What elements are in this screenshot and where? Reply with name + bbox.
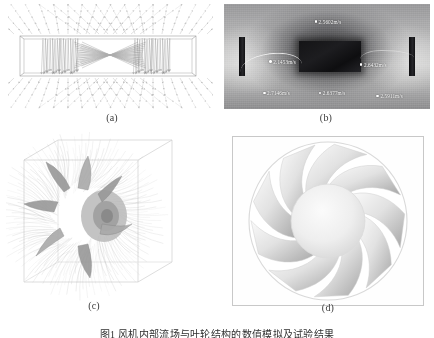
probe-wire-secondary xyxy=(360,50,414,59)
figure-root: (a) 2.5602m/s 2.1453m/s 2.6432m/s 2.7146… xyxy=(0,0,434,338)
panel-c-svg xyxy=(6,132,214,304)
measurement-point-bottom-mid: 2.6377m/s xyxy=(319,90,346,96)
panel-d-svg xyxy=(232,136,424,306)
figure-caption: 图1 风机内部流场与叶轮结构的数值模拟及试验结果 xyxy=(0,329,434,338)
panel-c-impeller-streamlines: (c) xyxy=(6,132,214,304)
measurement-dot xyxy=(315,20,317,22)
panel-b-photograph: 2.5602m/s 2.1453m/s 2.6432m/s 2.7146m/s … xyxy=(224,4,430,109)
device-under-test-block xyxy=(299,41,361,73)
measurement-value: 2.7146m/s xyxy=(267,90,290,96)
measurement-dot xyxy=(269,60,271,62)
measurement-value: 2.6377m/s xyxy=(323,90,346,96)
measurement-point-right-inner: 2.6432m/s xyxy=(360,62,387,68)
panel-c-sublabel: (c) xyxy=(64,300,124,311)
panel-d-sublabel: (d) xyxy=(298,302,358,313)
measurement-dot xyxy=(263,92,265,94)
measurement-point-bottom-right: 2.5911m/s xyxy=(376,93,402,99)
panel-a-svg xyxy=(8,4,213,110)
fan-hub xyxy=(291,184,365,258)
measurement-dot xyxy=(376,95,378,97)
measurement-point-top: 2.5602m/s xyxy=(315,19,342,25)
measurement-point-left-inner: 2.1453m/s xyxy=(269,59,296,65)
outer-vector-arrows xyxy=(8,4,213,108)
panel-a-cfd-vector-field: (a) xyxy=(8,4,213,110)
measurement-value: 2.1453m/s xyxy=(273,59,296,65)
measurement-dot xyxy=(319,92,321,94)
measurement-value: 2.5911m/s xyxy=(380,93,402,99)
measurement-point-bottom-left: 2.7146m/s xyxy=(263,90,290,96)
measurement-dot xyxy=(360,63,362,65)
panel-d-fan-front-view: (d) xyxy=(232,136,424,306)
measurement-value: 2.5602m/s xyxy=(319,19,342,25)
measurement-value: 2.6432m/s xyxy=(364,62,387,68)
panel-a-sublabel: (a) xyxy=(82,112,142,123)
panel-b-sublabel: (b) xyxy=(296,112,356,123)
